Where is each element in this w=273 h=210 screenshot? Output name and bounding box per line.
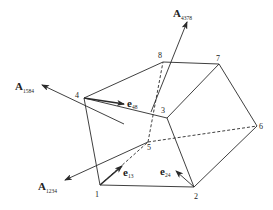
- label-e24: e24: [160, 165, 171, 178]
- label-e13: e13: [123, 166, 134, 179]
- e13-arrow-icon: [100, 166, 122, 185]
- node-label-2: 2: [194, 192, 198, 201]
- node-label-4: 4: [75, 91, 79, 100]
- node-label-8: 8: [158, 51, 162, 60]
- solid-edges: [84, 62, 257, 187]
- label-a4378: A4378: [173, 7, 192, 21]
- label-a1234: A1234: [38, 180, 57, 194]
- edge-7-3: [167, 64, 219, 118]
- edge-6-2: [194, 126, 257, 187]
- node-label-1: 1: [95, 190, 99, 199]
- label-e48: e48: [127, 97, 138, 110]
- edge-5-8: [148, 62, 163, 142]
- edge-4-3: [84, 98, 167, 118]
- a4378-arrow-icon: [151, 22, 187, 112]
- node-label-3: 3: [161, 106, 165, 115]
- hexahedron-diagram: 1 2 3 4 5 6 7 8 A4378 A1584 A1234 e48 e1…: [0, 0, 273, 210]
- edge-1-2: [100, 185, 194, 187]
- node-label-7: 7: [216, 54, 220, 63]
- label-a1584: A1584: [15, 80, 34, 94]
- a1234-arrow-icon: [65, 142, 148, 180]
- edge-8-7: [163, 62, 219, 64]
- area-vectors: [42, 22, 187, 180]
- node-labels: 1 2 3 4 5 6 7 8: [75, 51, 263, 201]
- edge-7-6: [219, 64, 257, 126]
- edge-5-6: [148, 126, 257, 142]
- node-label-6: 6: [259, 122, 263, 131]
- edge-3-2: [167, 118, 194, 187]
- node-label-5: 5: [147, 143, 151, 152]
- edge-4-8: [84, 62, 163, 98]
